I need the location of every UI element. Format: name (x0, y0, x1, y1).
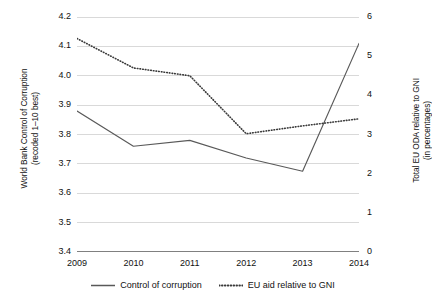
plot-area (77, 17, 359, 252)
y-axis-right-tick-4: 4 (367, 89, 397, 99)
y-axis-left-tick-3: 3.7 (41, 158, 71, 168)
y-axis-left-tick-7: 4.1 (41, 40, 71, 50)
y-axis-right-tick-3: 3 (367, 129, 397, 139)
y-axis-right-tick-6: 6 (367, 11, 397, 21)
legend-label-1: EU aid relative to GNI (248, 280, 335, 290)
y-axis-left-title: World Bank Control of Corruption (recode… (19, 44, 40, 214)
legend-item-control-of-corruption: Control of corruption (91, 280, 202, 290)
y-axis-left-tick-0: 3.4 (41, 246, 71, 256)
y-axis-left-tick-1: 3.5 (41, 217, 71, 227)
y-axis-right-tick-2: 2 (367, 168, 397, 178)
gridlines (77, 17, 359, 252)
chart-legend: Control of corruption EU aid relative to… (0, 280, 426, 290)
x-axis-tick-0: 2009 (54, 258, 100, 268)
x-axis-tick-3: 2012 (223, 258, 269, 268)
x-axis-tick-4: 2013 (280, 258, 326, 268)
y-axis-left-tick-4: 3.8 (41, 129, 71, 139)
legend-label-0: Control of corruption (120, 280, 202, 290)
legend-swatch-dotted (219, 282, 243, 289)
y-axis-left-tick-2: 3.6 (41, 187, 71, 197)
y-axis-left-title-line2: (recoded 1–10 best) (29, 44, 40, 214)
legend-item-eu-aid-relative-to-gni: EU aid relative to GNI (219, 280, 335, 290)
y-axis-right-title-line2: (in percentages) (421, 46, 432, 216)
legend-swatch-solid (91, 282, 115, 289)
y-axis-right-tick-1: 1 (367, 207, 397, 217)
y-axis-left-title-line1: World Bank Control of Corruption (19, 44, 30, 214)
y-axis-left-tick-6: 4.0 (41, 70, 71, 80)
y-axis-left-tick-8: 4.2 (41, 11, 71, 21)
y-axis-left-tick-5: 3.9 (41, 99, 71, 109)
y-axis-right-title: Total EU ODA relative to GNI (in percent… (411, 46, 432, 216)
y-axis-right-title-line1: Total EU ODA relative to GNI (411, 46, 422, 216)
x-axis-tick-1: 2010 (110, 258, 156, 268)
x-axis-tick-2: 2011 (167, 258, 213, 268)
x-axis-tick-5: 2014 (336, 258, 382, 268)
y-axis-right-tick-0: 0 (367, 246, 397, 256)
y-axis-right-tick-5: 5 (367, 50, 397, 60)
